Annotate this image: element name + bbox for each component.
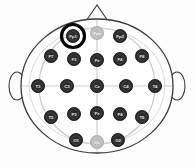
- eeg-montage-figure: Fp1FpzFp2F7F3FzF4F8T3C3CzC4T4T5P3PzP4T6O…: [0, 0, 194, 167]
- electrode-fp1[interactable]: Fp1: [66, 29, 79, 42]
- electrode-fz[interactable]: Fz: [90, 53, 103, 66]
- electrode-label: F3: [72, 57, 78, 62]
- electrode-label: Fp1: [69, 34, 77, 39]
- electrode-c4[interactable]: C4: [119, 79, 132, 92]
- electrode-t5[interactable]: T5: [44, 110, 57, 123]
- electrode-label: P4: [117, 112, 123, 117]
- electrode-label: Fp2: [116, 34, 124, 39]
- electrode-oz[interactable]: Oz: [90, 135, 103, 148]
- electrode-p3[interactable]: P3: [67, 107, 80, 120]
- electrode-f4[interactable]: F4: [113, 52, 126, 65]
- electrode-label: C4: [123, 84, 129, 89]
- electrode-p4[interactable]: P4: [113, 107, 126, 120]
- electrode-label: O2: [115, 138, 121, 143]
- electrode-cz[interactable]: Cz: [90, 79, 103, 92]
- electrode-label: O1: [73, 138, 79, 143]
- electrode-label: P3: [71, 112, 77, 117]
- electrode-label: T5: [49, 115, 55, 120]
- electrode-fpz[interactable]: Fpz: [90, 26, 103, 39]
- electrode-o1[interactable]: O1: [69, 133, 82, 146]
- electrode-t4[interactable]: T4: [148, 79, 161, 92]
- electrode-f3[interactable]: F3: [67, 52, 80, 65]
- electrode-label: Cz: [94, 84, 100, 89]
- electrode-label: F7: [49, 54, 55, 59]
- electrode-f7[interactable]: F7: [44, 49, 57, 62]
- electrode-label: T6: [140, 115, 146, 120]
- electrode-label: C3: [64, 84, 70, 89]
- electrode-c3[interactable]: C3: [60, 79, 73, 92]
- electrode-label: Fpz: [93, 31, 101, 36]
- eeg-montage-canvas: Fp1FpzFp2F7F3FzF4F8T3C3CzC4T4T5P3PzP4T6O…: [0, 0, 194, 167]
- electrode-label: Oz: [94, 140, 100, 145]
- electrode-pz[interactable]: Pz: [90, 106, 103, 119]
- electrode-fp2[interactable]: Fp2: [113, 29, 126, 42]
- electrode-o2[interactable]: O2: [111, 133, 124, 146]
- electrode-label: T4: [153, 84, 159, 89]
- electrode-f8[interactable]: F8: [135, 49, 148, 62]
- electrode-label: F8: [140, 54, 146, 59]
- electrode-label: T3: [36, 84, 42, 89]
- electrode-t3[interactable]: T3: [31, 79, 44, 92]
- electrode-t6[interactable]: T6: [135, 110, 148, 123]
- electrode-label: F4: [118, 57, 124, 62]
